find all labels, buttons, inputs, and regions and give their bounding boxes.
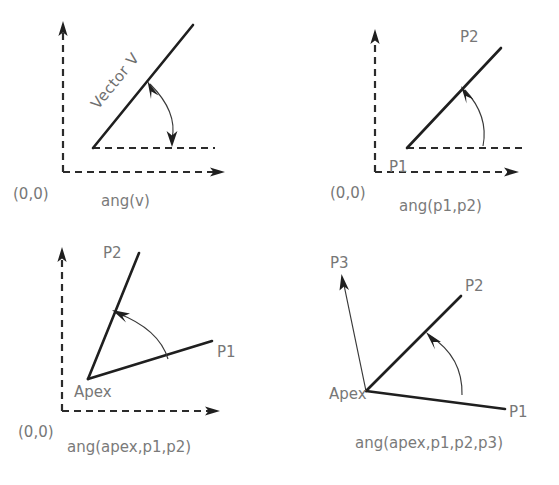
diagram-canvas: Vector V (0,0) ang(v) P2 P1 [0, 0, 559, 485]
arc-arrowhead-upper-icon [148, 81, 159, 99]
angle-functions-figure: Vector V (0,0) ang(v) P2 P1 [0, 0, 559, 485]
arc-arrowhead-icon [426, 332, 441, 350]
caption-panel4: ang(apex,p1,p2,p3) [355, 434, 503, 452]
ray-apex-p3 [344, 285, 366, 391]
arc-arrowhead-icon [461, 86, 474, 104]
ray-p1-p2 [407, 48, 501, 148]
vector-label: Vector V [87, 49, 143, 112]
x-axis-arrowhead-icon [504, 167, 519, 176]
angle-arc-panel3 [117, 313, 168, 359]
panel-ang-apex-p1-p2-p3: P3 P2 P1 Apex ang(apex,p1,p2,p3) [329, 254, 528, 452]
y-axis-arrowhead-icon [370, 29, 379, 44]
angle-arc-panel2 [465, 90, 484, 146]
ray-apex-p2 [88, 253, 139, 379]
origin-label-panel1: (0,0) [13, 185, 49, 203]
ray-apex-p1 [88, 341, 212, 379]
y-axis-arrowhead-icon [57, 247, 66, 262]
panel-ang-apex-p1-p2: P2 P1 Apex (0,0) ang(apex,p1,p2) [18, 244, 236, 456]
point-label-p1: P1 [509, 403, 528, 421]
origin-label-panel2: (0,0) [330, 184, 366, 202]
point-label-p3: P3 [330, 254, 349, 272]
origin-label-panel3: (0,0) [18, 423, 54, 441]
ray-apex-p1 [366, 391, 505, 409]
panel-ang-p1-p2: P2 P1 (0,0) ang(p1,p2) [330, 28, 525, 215]
point-label-p1: P1 [389, 158, 408, 176]
caption-panel1: ang(v) [101, 192, 150, 210]
caption-panel2: ang(p1,p2) [399, 197, 482, 215]
ray-apex-p2 [366, 296, 461, 391]
panel-ang-v: Vector V (0,0) ang(v) [13, 21, 225, 210]
caption-panel3: ang(apex,p1,p2) [67, 438, 191, 456]
angle-arc-panel4 [430, 336, 462, 395]
point-label-apex: Apex [329, 385, 367, 403]
point-label-p2: P2 [460, 28, 479, 46]
point-label-p2: P2 [103, 244, 122, 262]
point-label-p1: P1 [217, 343, 236, 361]
point-label-p2: P2 [465, 277, 484, 295]
point-label-apex: Apex [74, 383, 112, 401]
arc-arrowhead-lower-icon [167, 131, 178, 147]
